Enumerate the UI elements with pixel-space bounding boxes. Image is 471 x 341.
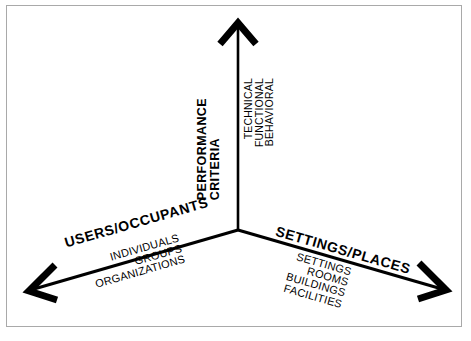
performance-item-behavioral: BEHAVIORAL	[264, 78, 275, 146]
performance-criteria-axis-label: PERFORMANCE CRITERIA	[186, 60, 232, 200]
right-axis-arrowhead	[418, 263, 446, 299]
performance-label-line-2: CRITERIA	[209, 138, 222, 200]
performance-criteria-items: TECHNICAL FUNCTIONAL BEHAVIORAL	[243, 78, 295, 198]
axes-group	[0, 0, 471, 341]
diagram-canvas: PERFORMANCE CRITERIA TECHNICAL FUNCTIONA…	[0, 0, 471, 341]
